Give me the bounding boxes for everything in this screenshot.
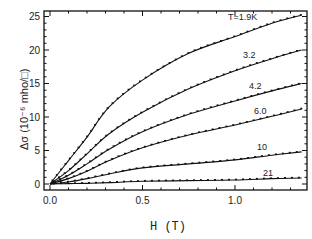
plot-frame xyxy=(44,11,307,190)
y-tick-label: 25 xyxy=(29,11,41,22)
y-tick-label: 20 xyxy=(29,45,41,56)
series-label: 4.2 xyxy=(249,81,262,91)
series-label: 21 xyxy=(263,168,273,178)
series-label: 3.2 xyxy=(243,50,256,60)
x-tick-label: 0.0 xyxy=(43,195,57,206)
x-tick-label: 1.0 xyxy=(228,195,242,206)
x-axis-label: H (T) xyxy=(150,220,186,234)
y-tick-label: 10 xyxy=(29,112,41,123)
plot-curves: T=1.9K3.24.26.01021 xyxy=(50,12,302,184)
series-label: T=1.9K xyxy=(228,12,257,22)
y-tick-label: 5 xyxy=(34,145,40,156)
series-label: 6.0 xyxy=(254,106,267,116)
magnetoconductance-chart: 05101520250.00.51.0 T=1.9K3.24.26.01021 … xyxy=(0,0,312,239)
x-tick-label: 0.5 xyxy=(136,195,150,206)
axis-labels: H (T) Δσ (10⁻⁶ mho/□) xyxy=(18,69,186,234)
series-label: 10 xyxy=(257,142,267,152)
y-axis-label: Δσ (10⁻⁶ mho/□) xyxy=(18,69,30,150)
y-tick-label: 0 xyxy=(34,179,40,190)
series-curve xyxy=(50,15,302,184)
y-tick-label: 15 xyxy=(29,78,41,89)
